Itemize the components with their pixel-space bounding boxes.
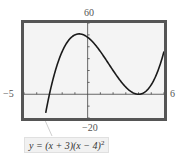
graph-screen (0, 0, 184, 160)
equation-text: y = (x + 3)(x − 4) (29, 140, 101, 151)
xmax-label: 6 (170, 89, 175, 99)
ymin-label: −20 (82, 123, 98, 133)
ymax-label: 60 (84, 8, 94, 18)
screen-background (23, 22, 165, 119)
calculator-graph-figure: 60 −20 −5 6 y = (x + 3)(x − 4)2 (0, 0, 184, 160)
equation-exponent: 2 (101, 139, 105, 147)
xmin-label: −5 (3, 89, 14, 99)
equation-label: y = (x + 3)(x − 4)2 (24, 137, 109, 153)
